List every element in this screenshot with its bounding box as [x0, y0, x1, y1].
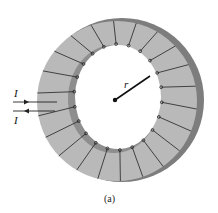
- toroid-figure: r I I (a): [0, 0, 218, 213]
- figure-caption: (a): [104, 193, 115, 205]
- current-in-label: I: [13, 87, 19, 99]
- arrow-in-icon: [24, 100, 29, 105]
- arrow-out-icon: [24, 109, 29, 114]
- center-dot: [113, 98, 117, 102]
- current-out-label: I: [13, 114, 19, 126]
- radius-label: r: [124, 78, 129, 90]
- winding-turn: [120, 150, 121, 181]
